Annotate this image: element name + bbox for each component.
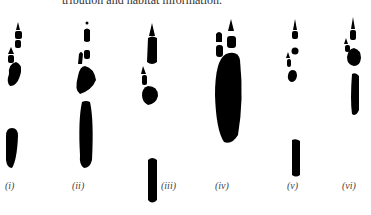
footprint-iv bbox=[215, 19, 242, 143]
footprint-figure bbox=[0, 0, 371, 215]
panel-label-vi: (vi) bbox=[342, 180, 356, 191]
panel-label-iv: (iv) bbox=[215, 180, 229, 191]
footprint-i bbox=[6, 22, 22, 168]
footprint-ii bbox=[76, 22, 96, 169]
panel-label-i: (i) bbox=[5, 180, 14, 191]
footprint-iii bbox=[141, 23, 158, 203]
footprint-vi bbox=[344, 17, 361, 115]
panel-label-v: (v) bbox=[287, 180, 298, 191]
footprint-v bbox=[286, 19, 300, 177]
panel-label-ii: (ii) bbox=[72, 180, 84, 191]
panel-label-iii: (iii) bbox=[161, 180, 176, 191]
